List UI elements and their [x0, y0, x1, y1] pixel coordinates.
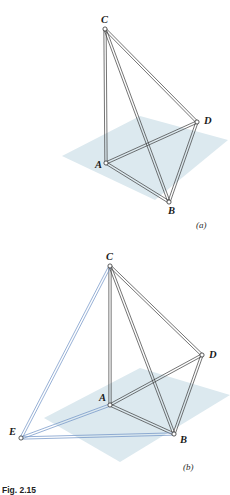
edge-CD: [109, 265, 203, 356]
vertex-node-C: [108, 264, 112, 268]
vertex-node-E: [19, 436, 23, 440]
plane-shading-b: [44, 368, 230, 462]
vertex-label-D: D: [208, 349, 217, 360]
vertex-node-D: [200, 353, 204, 357]
vertex-node-B: [172, 432, 176, 436]
figure-container: CDAB (a) CDABE (b) Fig. 2.15: [0, 0, 230, 495]
vertex-node-A: [108, 403, 112, 407]
vertex-label-E: E: [8, 426, 16, 437]
panel-b-diagram: CDABE (b) Fig. 2.15: [0, 0, 230, 495]
vertex-label-C: C: [106, 251, 114, 262]
vertex-label-B: B: [179, 434, 187, 445]
panel-label-b: (b): [183, 462, 194, 472]
vertex-label-A: A: [98, 392, 106, 403]
figure-caption: Fig. 2.15: [2, 485, 36, 495]
